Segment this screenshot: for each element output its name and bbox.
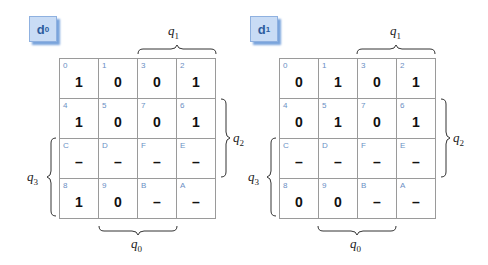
label-letter: d bbox=[258, 22, 266, 37]
kmap-d1: 00 11 30 21 40 51 70 61 C– D– F– E– 80 9… bbox=[279, 58, 436, 219]
kmap-row: C– D– F– E– bbox=[60, 139, 216, 179]
kmap-cell: 80 bbox=[280, 179, 319, 219]
kmap-cell: C– bbox=[60, 139, 99, 179]
kmap-cell: F– bbox=[138, 139, 177, 179]
kmap-row: 00 11 30 21 bbox=[280, 59, 436, 99]
kmap-d0: 01 10 30 21 41 50 70 61 C– D– F– E– 81 9… bbox=[59, 58, 216, 219]
kmap-cell: E– bbox=[177, 139, 216, 179]
brace-q2 bbox=[220, 98, 232, 178]
kmap-cell: A– bbox=[177, 179, 216, 219]
kmap-cell: D– bbox=[319, 139, 358, 179]
kmap-cell: 21 bbox=[397, 59, 436, 99]
label-letter: d bbox=[37, 22, 45, 37]
kmap-row: 01 10 30 21 bbox=[60, 59, 216, 99]
kmap-cell: A– bbox=[397, 179, 436, 219]
kmap-row: 40 51 70 61 bbox=[280, 99, 436, 139]
kmap-cell: 90 bbox=[99, 179, 138, 219]
var-q1-label-right: q1 bbox=[390, 23, 401, 41]
brace-q3 bbox=[45, 137, 57, 217]
kmap-cell: 50 bbox=[99, 99, 138, 139]
brace-q3-right bbox=[265, 137, 277, 217]
kmap-cell: 30 bbox=[138, 59, 177, 99]
kmap-cell: 70 bbox=[358, 99, 397, 139]
kmap-cell: 21 bbox=[177, 59, 216, 99]
kmap-row: C– D– F– E– bbox=[280, 139, 436, 179]
kmap-cell: D– bbox=[99, 139, 138, 179]
kmap-cell: 01 bbox=[60, 59, 99, 99]
brace-q2-right bbox=[440, 98, 452, 178]
map-label-d0: d0 bbox=[29, 16, 57, 42]
kmap-row: 41 50 70 61 bbox=[60, 99, 216, 139]
label-subscript: 1 bbox=[266, 25, 270, 34]
kmap-cell: 70 bbox=[138, 99, 177, 139]
kmap-cell: F– bbox=[358, 139, 397, 179]
var-q3-label: q3 bbox=[27, 169, 38, 187]
var-q3-label-right: q3 bbox=[248, 169, 259, 187]
kmap-cell: 10 bbox=[99, 59, 138, 99]
kmap-cell: 51 bbox=[319, 99, 358, 139]
kmap-cell: 90 bbox=[319, 179, 358, 219]
kmap-row: 81 90 B– A– bbox=[60, 179, 216, 219]
kmap-cell: 40 bbox=[280, 99, 319, 139]
var-q0-label: q0 bbox=[131, 236, 142, 254]
kmap-row: 80 90 B– A– bbox=[280, 179, 436, 219]
kmap-cell: B– bbox=[138, 179, 177, 219]
kmap-cell: 61 bbox=[397, 99, 436, 139]
brace-q1-right bbox=[356, 44, 436, 56]
kmap-cell: 30 bbox=[358, 59, 397, 99]
kmap-cell: B– bbox=[358, 179, 397, 219]
kmap-cell: E– bbox=[397, 139, 436, 179]
kmap-cell: 61 bbox=[177, 99, 216, 139]
brace-q1 bbox=[137, 44, 217, 56]
kmap-cell: 81 bbox=[60, 179, 99, 219]
kmap-cell: 00 bbox=[280, 59, 319, 99]
map-label-d1: d1 bbox=[250, 16, 278, 42]
kmap-cell: 11 bbox=[319, 59, 358, 99]
var-q2-label-right: q2 bbox=[453, 130, 464, 148]
var-q0-label-right: q0 bbox=[350, 236, 361, 254]
var-q2-label: q2 bbox=[233, 130, 244, 148]
kmap-cell: C– bbox=[280, 139, 319, 179]
var-q1-label: q1 bbox=[168, 23, 179, 41]
kmap-cell: 41 bbox=[60, 99, 99, 139]
label-subscript: 0 bbox=[45, 25, 49, 34]
